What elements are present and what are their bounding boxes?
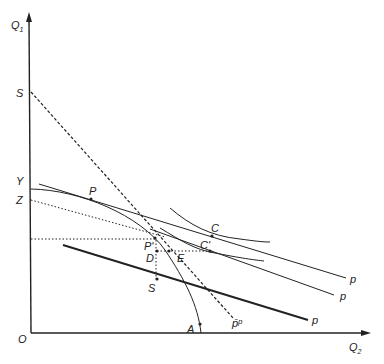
label-y: Y	[16, 175, 24, 187]
point-p-prime	[153, 236, 156, 239]
label-z: Z	[15, 194, 24, 206]
q1-axis	[29, 18, 31, 333]
label-p-prime: P'	[144, 240, 154, 252]
point-d	[155, 249, 158, 252]
label-price-line-bottom: p	[311, 314, 318, 326]
label-price-line-middle: p	[339, 290, 346, 302]
indifference-curve-c	[170, 208, 270, 242]
label-s-low: S	[148, 282, 156, 294]
label-c: C	[211, 222, 219, 234]
point-e	[167, 249, 170, 252]
point-s-low	[155, 277, 158, 280]
label-e: E	[177, 252, 185, 264]
label-a: A	[186, 323, 194, 335]
price-line-bottom	[63, 245, 308, 320]
label-price-line-top: p	[349, 273, 356, 285]
dotted-line-z	[31, 200, 165, 237]
origin-label: O	[18, 333, 27, 345]
dashed-line-s-pbar	[31, 92, 233, 318]
label-p: P	[89, 185, 97, 197]
q1-axis-arrow-icon	[26, 12, 32, 22]
diagram-canvas: Q1 Q2 O S Y Z P P' D E S C C' A p̄ᵖ p p …	[0, 0, 384, 364]
point-a	[198, 322, 201, 325]
label-p-bar: p̄ᵖ	[231, 317, 243, 329]
q1-axis-label: Q1	[11, 19, 24, 33]
q2-axis-arrow-icon	[361, 330, 371, 336]
point-c	[210, 234, 213, 237]
label-d: D	[146, 252, 154, 264]
price-line-top	[39, 184, 346, 278]
label-c-prime: C'	[200, 239, 211, 251]
point-p	[89, 197, 92, 200]
q2-axis-label: Q2	[349, 341, 362, 355]
label-s-top: S	[16, 87, 24, 99]
